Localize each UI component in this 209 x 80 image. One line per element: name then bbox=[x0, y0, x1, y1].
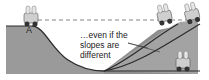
coaster-car-icon bbox=[24, 6, 38, 27]
coaster-car-icon bbox=[182, 1, 201, 24]
caption-line-3: different bbox=[80, 50, 128, 60]
caption-line-1: …even if the bbox=[80, 30, 128, 40]
caption-text: …even if the slopes are different bbox=[80, 30, 128, 60]
point-a-label: A bbox=[26, 26, 32, 35]
coaster-car-icon bbox=[155, 3, 173, 26]
energy-diagram: A …even if the slopes are different bbox=[0, 0, 209, 80]
caption-line-2: slopes are bbox=[80, 40, 128, 50]
